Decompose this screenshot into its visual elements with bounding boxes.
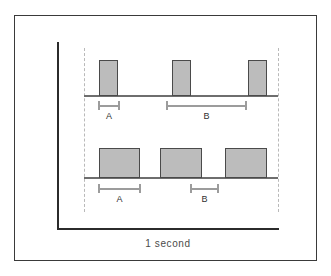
bottom-waveform-pulse-2 xyxy=(160,148,202,178)
top-waveform-label-a: A xyxy=(98,111,120,121)
guide-line-start xyxy=(84,48,85,212)
figure-frame xyxy=(14,15,317,261)
x-axis-caption: 1 second xyxy=(57,238,279,249)
bottom-waveform-bracket-b xyxy=(190,184,219,193)
top-waveform-pulse-3 xyxy=(248,60,267,96)
top-waveform-label-b: B xyxy=(166,111,247,121)
pulse-width-diagram: AB AB 1 second xyxy=(0,0,331,276)
top-waveform-bracket-a xyxy=(98,101,120,110)
bottom-waveform-label-a: A xyxy=(98,194,141,204)
bracket-cap-start xyxy=(190,184,192,193)
bracket-cap-end xyxy=(217,184,219,193)
bracket-cap-end xyxy=(139,184,141,193)
bottom-waveform-pulse-1 xyxy=(99,148,140,178)
guide-line-end xyxy=(278,48,279,212)
bottom-waveform-pulse-3 xyxy=(225,148,267,178)
top-waveform-pulse-2 xyxy=(172,60,191,96)
bracket-bar xyxy=(98,105,120,107)
bracket-cap-end xyxy=(118,101,120,110)
bracket-bar xyxy=(190,188,219,190)
bracket-cap-start xyxy=(98,101,100,110)
x-axis xyxy=(57,228,279,230)
bottom-waveform-label-b: B xyxy=(190,194,219,204)
top-waveform-bracket-b xyxy=(166,101,247,110)
bracket-cap-end xyxy=(245,101,247,110)
top-waveform-pulse-1 xyxy=(99,60,118,96)
bracket-cap-start xyxy=(98,184,100,193)
bottom-waveform-bracket-a xyxy=(98,184,141,193)
bracket-cap-start xyxy=(166,101,168,110)
y-axis xyxy=(57,42,59,230)
bracket-bar xyxy=(166,105,247,107)
bracket-bar xyxy=(98,188,141,190)
